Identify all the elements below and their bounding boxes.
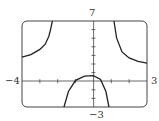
left-branch-curve	[22, 21, 52, 57]
x-min-label: −4	[5, 76, 20, 86]
x-max-label: 3	[151, 76, 157, 86]
axis-ticks	[40, 30, 129, 99]
right-branch-curve	[114, 21, 147, 63]
function-curves	[22, 21, 147, 107]
y-min-label: −3	[89, 110, 104, 120]
plot-frame	[22, 21, 147, 107]
middle-branch-curve	[64, 76, 109, 107]
graph-plot	[0, 0, 159, 121]
y-max-label: 7	[89, 8, 95, 18]
